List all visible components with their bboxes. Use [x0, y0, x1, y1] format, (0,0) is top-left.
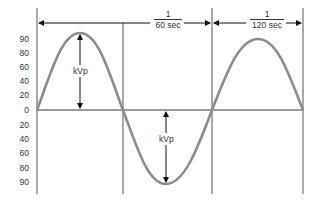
y-label-neg-90: 90: [5, 177, 29, 187]
y-label-neg-40: 40: [5, 134, 29, 144]
kvp-label-positive: kVp: [73, 65, 88, 77]
y-label-40: 40: [5, 76, 29, 86]
y-label-neg-80: 80: [5, 163, 29, 173]
kvp-label-negative: kVp: [159, 133, 174, 145]
half-cycle-numerator: 1: [250, 9, 284, 19]
full-cycle-denominator: 60 sec: [154, 19, 182, 30]
full-cycle-label: 1 60 sec: [152, 9, 184, 30]
y-label-20: 20: [5, 90, 29, 100]
y-label-neg-20: 20: [5, 120, 29, 130]
half-cycle-label: 1 120 sec: [248, 9, 286, 30]
kvp-waveform-diagram: 90 80 60 40 20 0 20 40 60 80 90 1 60 sec…: [0, 0, 324, 202]
y-label-90: 90: [5, 34, 29, 44]
half-cycle-denominator: 120 sec: [250, 19, 284, 30]
y-label-neg-60: 60: [5, 148, 29, 158]
y-label-0: 0: [5, 105, 29, 115]
y-label-80: 80: [5, 48, 29, 58]
sine-waveform: [37, 33, 303, 184]
diagram-canvas: [0, 0, 324, 202]
full-cycle-numerator: 1: [154, 9, 182, 19]
y-label-60: 60: [5, 62, 29, 72]
